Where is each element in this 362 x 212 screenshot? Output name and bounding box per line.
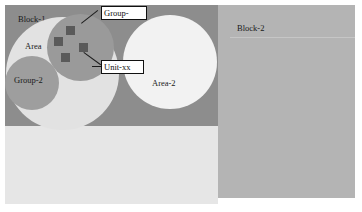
unit-square [61, 53, 70, 62]
diagram-canvas: Block-1 Block-2 Block-3 Area Area-2 Grou… [0, 0, 362, 212]
block-2-divider [230, 37, 355, 38]
block-3-region: Block-3 [5, 126, 218, 204]
unit-square [54, 37, 63, 46]
unit-callout-box: Unit-xx [101, 60, 144, 74]
block-2-label: Block-2 [237, 24, 264, 33]
area-2-label: Area-2 [152, 79, 176, 88]
group-2-label: Group-2 [14, 76, 43, 85]
group-callout-box: Group- [101, 6, 147, 20]
unit-square [66, 26, 75, 35]
area-1-label: Area [25, 42, 42, 51]
block-2-region [218, 5, 355, 198]
